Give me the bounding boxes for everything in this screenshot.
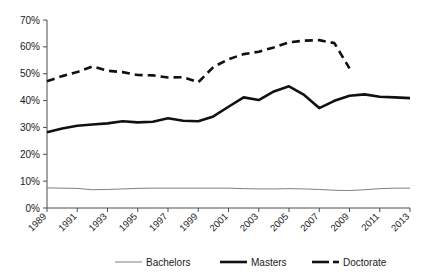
series-lines bbox=[47, 40, 410, 190]
x-tick-label: 2009 bbox=[328, 211, 351, 234]
y-tick-label: 0% bbox=[26, 203, 41, 214]
legend-label-doctorate: Doctorate bbox=[343, 257, 387, 268]
legend-label-bachelors: Bachelors bbox=[146, 257, 190, 268]
x-tick-label: 1989 bbox=[26, 211, 49, 234]
x-tick-label: 1997 bbox=[147, 211, 170, 234]
series-line-doctorate bbox=[47, 40, 350, 82]
x-axis: 1989199119931995199719992001200320052007… bbox=[26, 208, 412, 233]
chart-legend: BachelorsMastersDoctorate bbox=[115, 257, 387, 268]
y-tick-label: 40% bbox=[20, 95, 40, 106]
x-tick-label: 1991 bbox=[56, 211, 79, 234]
series-line-masters bbox=[47, 86, 410, 132]
x-tick-label: 2001 bbox=[207, 211, 230, 234]
x-tick-label: 2011 bbox=[359, 211, 381, 233]
series-line-bachelors bbox=[47, 188, 410, 191]
y-tick-label: 20% bbox=[20, 149, 40, 160]
x-tick-label: 1995 bbox=[116, 211, 139, 234]
y-tick-label: 70% bbox=[20, 15, 40, 26]
x-tick-label: 2007 bbox=[298, 211, 321, 234]
y-tick-label: 30% bbox=[20, 122, 40, 133]
y-tick-label: 50% bbox=[20, 68, 40, 79]
x-tick-label: 1993 bbox=[86, 211, 109, 234]
legend-label-masters: Masters bbox=[251, 257, 287, 268]
x-tick-label: 2005 bbox=[268, 211, 291, 234]
x-tick-label: 2013 bbox=[389, 211, 412, 234]
x-tick-label: 2003 bbox=[237, 211, 260, 234]
y-axis: 0%10%20%30%40%50%60%70% bbox=[20, 15, 47, 214]
y-tick-label: 10% bbox=[20, 176, 40, 187]
y-tick-label: 60% bbox=[20, 41, 40, 52]
x-tick-label: 1999 bbox=[177, 211, 200, 234]
chart-canvas: 0%10%20%30%40%50%60%70% 1989199119931995… bbox=[0, 0, 425, 278]
line-chart: 0%10%20%30%40%50%60%70% 1989199119931995… bbox=[0, 0, 425, 278]
